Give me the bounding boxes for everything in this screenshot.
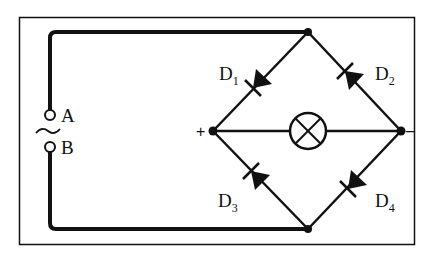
- node-positive: [209, 127, 218, 136]
- ac-source-icon: [36, 129, 60, 133]
- terminal-a-label: A: [61, 105, 75, 126]
- terminal-b-icon: [45, 142, 55, 152]
- diode-d4-label: D4: [375, 190, 395, 215]
- diode-d3-label: D3: [218, 190, 238, 215]
- terminal-b-label: B: [61, 137, 74, 158]
- lamp-icon: [290, 113, 326, 149]
- negative-sign: –: [406, 122, 415, 139]
- positive-sign: +: [196, 123, 205, 140]
- node-top: [304, 28, 312, 36]
- node-bottom: [304, 225, 312, 233]
- diode-d2-label: D2: [375, 63, 395, 88]
- bridge-rectifier-diagram: A B D1 D2 D3 D4 + –: [0, 0, 437, 256]
- terminal-a-icon: [45, 110, 55, 120]
- node-negative: [397, 127, 406, 136]
- diode-d1-label: D1: [219, 63, 239, 88]
- diode-d4-icon: [340, 170, 367, 197]
